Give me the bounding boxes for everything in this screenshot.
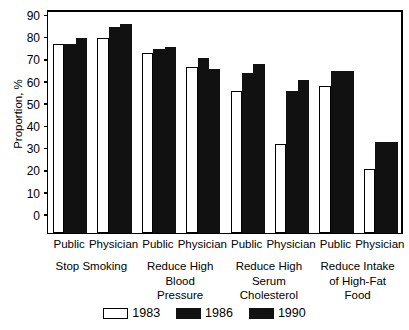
legend-label: 1986: [205, 307, 233, 320]
y-axis-tick-label: 20: [27, 165, 44, 177]
x-axis-subgroup-label: Physician: [355, 238, 404, 250]
plot-area: 1009080706050403020100: [47, 11, 403, 234]
bars-layer: [48, 11, 403, 233]
y-axis-tick-label: 70: [27, 54, 44, 66]
bar: [120, 24, 131, 233]
y-axis-tick: 40: [27, 117, 48, 135]
legend-item: 1983: [103, 307, 160, 320]
bar: [331, 71, 342, 233]
x-axis-subgroup-label: Public: [142, 238, 173, 250]
y-axis-tick-label: 60: [27, 77, 44, 89]
y-axis-tick: 70: [27, 51, 48, 69]
bar: [375, 142, 386, 233]
x-axis-subgroup-label: Public: [54, 238, 85, 250]
bar: [253, 64, 264, 233]
bar: [209, 69, 220, 233]
bar: [286, 91, 297, 233]
bar: [109, 27, 120, 233]
legend-swatch: [176, 308, 201, 319]
bar: [142, 53, 153, 233]
bar: [242, 73, 253, 233]
y-axis-tick: 50: [27, 95, 48, 113]
y-axis-tick: 30: [27, 139, 48, 157]
bar: [53, 44, 64, 233]
y-axis-tick: 10: [27, 184, 48, 202]
bar: [319, 86, 330, 233]
y-axis-tick: 20: [27, 162, 48, 180]
y-axis-tick-label: 0: [33, 210, 44, 222]
bar: [364, 169, 375, 233]
x-axis-subgroup-label: Public: [231, 238, 262, 250]
y-axis-tick: 80: [27, 28, 48, 46]
x-axis-subgroup-label: Physician: [89, 238, 138, 250]
bar: [165, 47, 176, 233]
y-axis-tick-label: 10: [27, 188, 44, 200]
bar: [153, 49, 164, 233]
bar: [64, 44, 75, 233]
grouped-bar-chart: Proportion, % 1009080706050403020100 Pub…: [0, 0, 409, 330]
x-axis-subgroup-label: Physician: [266, 238, 315, 250]
legend-item: 1986: [176, 307, 233, 320]
legend-swatch: [103, 308, 128, 319]
legend-swatch: [249, 308, 274, 319]
y-axis-tick-label: 80: [27, 32, 44, 44]
legend-item: 1990: [249, 307, 306, 320]
chart-legend: 198319861990: [0, 307, 409, 320]
bar: [342, 71, 353, 233]
y-axis-tick: 0: [33, 206, 48, 224]
bar: [97, 38, 108, 233]
x-axis-subgroup-label: Public: [320, 238, 351, 250]
y-axis-tick: 100: [20, 0, 48, 2]
bar: [298, 80, 309, 233]
y-axis-tick: 60: [27, 73, 48, 91]
bar: [275, 144, 286, 233]
x-axis-group-label-line: of High-Fat: [303, 274, 409, 289]
legend-label: 1983: [132, 307, 160, 320]
y-axis-title: Proportion, %: [12, 54, 24, 174]
y-axis-tick: 90: [27, 6, 48, 24]
y-axis-tick-label: 90: [27, 10, 44, 22]
x-axis-subgroup-labels: PublicPhysicianPublicPhysicianPublicPhys…: [47, 238, 403, 254]
x-axis-group-label-line: Food: [303, 288, 409, 303]
bar: [231, 91, 242, 233]
x-axis-group-label: Reduce Intakeof High-FatFood: [303, 259, 409, 303]
y-axis-tick-label: 40: [27, 121, 44, 133]
bar: [76, 38, 87, 233]
bar: [198, 58, 209, 233]
x-axis-subgroup-label: Physician: [178, 238, 227, 250]
bar: [387, 142, 398, 233]
x-axis-group-label-line: Reduce Intake: [303, 259, 409, 274]
x-axis-group-labels: Stop SmokingReduce HighBloodPressureRedu…: [47, 259, 403, 307]
bar: [186, 67, 197, 234]
y-axis-tick-label: 30: [27, 143, 44, 155]
y-axis-tick-label: 50: [27, 99, 44, 111]
legend-label: 1990: [278, 307, 306, 320]
